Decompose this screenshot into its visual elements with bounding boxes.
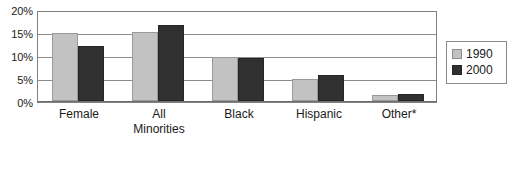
legend-swatch-1990-icon	[452, 49, 462, 59]
y-axis: 20% 15% 10% 5% 0%	[0, 0, 37, 114]
x-label-black-line1: Black	[224, 107, 253, 121]
y-tick-label-5: 5%	[17, 75, 33, 86]
x-label-other-line1: Other*	[382, 107, 417, 121]
x-axis-labels: Female All Minorities Black Hispanic Oth…	[37, 107, 437, 152]
legend-label-2000: 2000	[466, 64, 493, 76]
plot-area	[37, 11, 437, 103]
legend-item-1990: 1990	[452, 46, 501, 62]
bar-chart: 20% 15% 10% 5% 0%	[0, 0, 509, 170]
x-label-hispanic-line1: Hispanic	[296, 107, 342, 121]
x-label-all-minorities-line2: Minorities	[109, 122, 209, 137]
bars-layer	[38, 12, 436, 102]
x-label-other: Other*	[349, 107, 449, 122]
bar-black-2000	[238, 58, 264, 101]
bar-female-1990	[52, 33, 78, 101]
y-tick-label-10: 10%	[11, 52, 33, 63]
bar-other-1990	[372, 95, 398, 101]
y-tick-label-20: 20%	[11, 6, 33, 17]
x-label-all-minorities-line1: All	[152, 107, 165, 121]
bar-female-2000	[78, 46, 104, 101]
y-tick-label-15: 15%	[11, 29, 33, 40]
bar-hispanic-1990	[292, 79, 318, 101]
legend-item-2000: 2000	[452, 62, 501, 78]
legend-label-1990: 1990	[466, 48, 493, 60]
bar-black-1990	[212, 57, 238, 101]
bar-all-minorities-2000	[158, 25, 184, 101]
legend: 1990 2000	[446, 41, 507, 84]
bar-other-2000	[398, 94, 424, 101]
x-label-female-line1: Female	[59, 107, 99, 121]
bar-hispanic-2000	[318, 75, 344, 101]
legend-swatch-2000-icon	[452, 65, 462, 75]
bar-all-minorities-1990	[132, 32, 158, 101]
